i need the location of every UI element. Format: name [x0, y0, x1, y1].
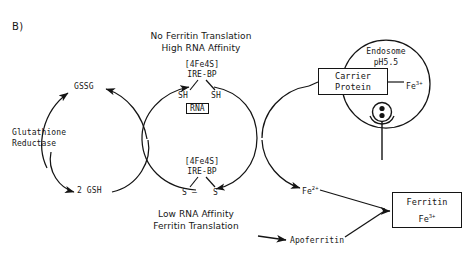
rna-label: RNA — [186, 103, 209, 114]
ferrous-charge: 2+ — [312, 185, 319, 191]
gssg-label: GSSG — [74, 82, 94, 92]
disulfide-bond: — — [192, 188, 197, 198]
thiol-right-label: SH — [211, 91, 221, 101]
figure-caption-line-1: Low RNA Affinity — [124, 208, 268, 220]
iron-symbol: Fe — [406, 82, 416, 91]
carrier-protein-box: Carrier Protein — [318, 68, 388, 95]
line-irebp-to-sh-left — [190, 80, 198, 90]
line-irebp-to-s-left — [190, 177, 198, 187]
ferritin-box: Ferritin Fe3+ — [392, 192, 462, 228]
top-ironsulfur-cluster-label: [4Fe4S] — [168, 60, 236, 70]
rna-box: RNA — [186, 104, 209, 114]
arc-gsh-to-gssg-upper — [106, 89, 147, 139]
thiol-left-label: SH — [178, 91, 188, 101]
endosome-label: Endosome — [352, 47, 420, 57]
ferrous-symbol: Fe — [302, 187, 312, 196]
ferritin-bound-iron-label: Fe3+ — [393, 211, 461, 225]
disulfide-sulfur-left: S — [182, 188, 187, 198]
gsh-label: 2 GSH — [77, 186, 102, 196]
endosome-ph-label: pH5.5 — [352, 58, 420, 68]
endosomal-ferric-iron-label: Fe3+ — [406, 78, 422, 92]
ferritin-iron-symbol: Fe — [419, 214, 429, 224]
carrier-protein-line-1: Carrier — [319, 71, 387, 82]
figure-title-line-1: No Ferritin Translation — [129, 30, 273, 42]
receptor-dot-lower — [379, 113, 384, 118]
receptor-dot-upper — [379, 106, 384, 111]
arrow-translation-to-apoferritin — [258, 236, 286, 240]
panel-label: B) — [12, 22, 24, 32]
line-cycle-to-carrier-protein — [309, 82, 318, 86]
glutathione-reductase-line-2: Reductase — [12, 139, 56, 149]
line-irebp-to-sh-right — [206, 80, 215, 90]
line-ferrous-to-ferritin-node — [320, 190, 385, 209]
line-apoferritin-to-ferritin-node — [345, 212, 383, 237]
ferrous-iron-label: Fe2+ — [302, 183, 318, 197]
ferritin-label: Ferritin — [393, 197, 461, 208]
line-irebp-to-s-right — [206, 177, 215, 187]
iron-charge: 3+ — [416, 80, 423, 86]
disulfide-sulfur-right: S — [213, 188, 218, 198]
bottom-ironsulfur-cluster-label: [4Fe4S] — [168, 157, 236, 167]
receptor-vesicle-circle — [373, 103, 392, 122]
apoferritin-label: Apoferritin — [290, 236, 344, 246]
bottom-irebp-label: IRE-BP — [168, 167, 236, 177]
figure-panel-b: B) No Ferritin Translation High RNA Affi… — [0, 0, 471, 258]
top-irebp-label: IRE-BP — [168, 70, 236, 80]
arc-iron-release-to-ferrous — [262, 140, 300, 188]
arc-glutathione-reductase-reduction — [50, 152, 74, 192]
arc-iron-uptake-upper — [262, 86, 309, 138]
carrier-protein-line-2: Protein — [319, 82, 387, 93]
glutathione-reductase-line-1: Glutathione — [12, 128, 66, 138]
figure-caption-line-2: Ferritin Translation — [124, 220, 268, 232]
figure-title-line-2: High RNA Affinity — [129, 42, 273, 54]
ferritin-iron-charge: 3+ — [429, 213, 436, 219]
